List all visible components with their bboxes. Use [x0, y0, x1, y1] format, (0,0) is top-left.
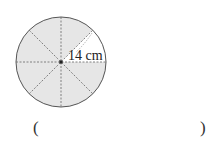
center-point	[59, 60, 63, 64]
answer-close-paren: )	[200, 118, 206, 138]
answer-open-paren: (	[33, 118, 39, 138]
radius-label: 14 cm	[68, 48, 103, 63]
answer-blank[interactable]	[44, 120, 199, 138]
